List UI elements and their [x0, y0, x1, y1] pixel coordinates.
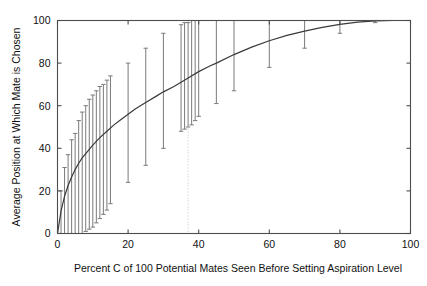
x-tick-label: 40 [193, 238, 205, 250]
error-bars-group [59, 21, 378, 234]
y-tick-label: 40 [39, 142, 51, 154]
error-bar [193, 21, 197, 121]
error-bar [179, 25, 183, 131]
error-bar [182, 23, 186, 130]
y-axis-title: Average Position at Which Mate is Chosen [10, 27, 22, 226]
error-bar [197, 21, 201, 117]
error-bar [66, 155, 70, 234]
error-bar [189, 21, 193, 125]
error-bar [267, 21, 271, 68]
error-bar [108, 76, 112, 204]
x-tick-label: 0 [55, 238, 61, 250]
error-bar [87, 99, 91, 229]
y-tick-label: 80 [39, 57, 51, 69]
error-bar [73, 133, 77, 233]
y-tick-label: 60 [39, 100, 51, 112]
x-tick-label: 100 [402, 238, 420, 250]
y-tick-label: 100 [33, 14, 51, 26]
error-bar [84, 106, 88, 232]
error-bar [80, 112, 84, 233]
error-bar [98, 87, 102, 219]
error-bar [69, 140, 73, 234]
x-tick-label: 20 [122, 238, 134, 250]
chart-figure: 020406080100 020406080100 Percent C of 1… [0, 0, 427, 286]
error-bar [101, 84, 105, 214]
error-bar [94, 91, 98, 223]
error-bar [91, 95, 95, 227]
x-tick-label: 60 [263, 238, 275, 250]
error-bar [302, 21, 306, 49]
x-tick-label: 80 [334, 238, 346, 250]
x-axis-title: Percent C of 100 Potential Mates Seen Be… [74, 262, 402, 274]
y-axis-tick-labels: 020406080100 [33, 14, 51, 239]
y-tick-label: 20 [39, 185, 51, 197]
x-axis-tick-labels: 020406080100 [55, 238, 420, 250]
chart-plot-area: 020406080100 020406080100 Percent C of 1… [0, 0, 427, 286]
error-bar [76, 121, 80, 234]
error-bar [126, 63, 130, 182]
error-bar [105, 80, 109, 210]
error-bar [144, 48, 148, 165]
y-tick-label: 0 [45, 227, 51, 239]
